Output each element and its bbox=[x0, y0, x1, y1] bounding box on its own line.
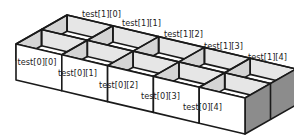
array-diagram: test[1][0] test[1][1] test[1][2] test[1]… bbox=[0, 0, 294, 136]
label-test-1-1: test[1][1] bbox=[122, 18, 161, 28]
label-test-0-2: test[0][2] bbox=[99, 80, 138, 90]
label-test-1-4: test[1][4] bbox=[248, 52, 287, 62]
array-diagram-svg: test[1][0] test[1][1] test[1][2] test[1]… bbox=[0, 0, 294, 136]
label-test-0-0: test[0][0] bbox=[18, 57, 57, 67]
label-test-1-2: test[1][2] bbox=[164, 29, 203, 39]
label-test-0-3: test[0][3] bbox=[141, 91, 180, 101]
label-test-0-1: test[0][1] bbox=[58, 68, 97, 78]
front-face-cell-0-0 bbox=[16, 44, 62, 91]
label-test-1-3: test[1][3] bbox=[204, 41, 243, 51]
label-test-1-0: test[1][0] bbox=[82, 9, 121, 19]
label-test-0-4: test[0][4] bbox=[183, 102, 222, 112]
front-face-cell-0-1 bbox=[62, 55, 108, 102]
